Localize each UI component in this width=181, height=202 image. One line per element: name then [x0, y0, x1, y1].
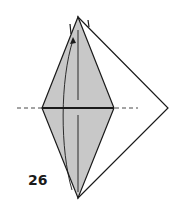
step-number: 26: [28, 172, 47, 188]
tick-right: [88, 20, 89, 27]
tick-left: [70, 24, 71, 34]
